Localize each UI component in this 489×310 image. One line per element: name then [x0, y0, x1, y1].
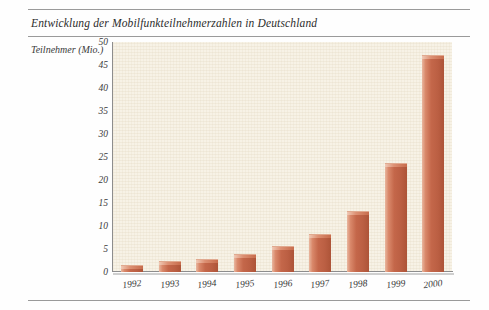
chart-figure: Entwicklung der Mobilfunkteilnehmerzahle… [0, 0, 489, 310]
y-axis-tick-label: 30 [82, 129, 108, 139]
x-axis-tick-label: 1998 [339, 277, 378, 292]
bar [196, 259, 218, 272]
y-axis-tick-label: 0 [82, 267, 108, 277]
x-axis-tick-label: 1995 [226, 277, 265, 292]
bar [347, 211, 369, 272]
x-axis-tick-label: 1993 [150, 277, 189, 292]
bar [159, 261, 181, 272]
bar-top-highlight [159, 262, 181, 265]
bottom-rule [28, 300, 470, 301]
y-axis-tick-label: 25 [82, 152, 108, 162]
bar-top-highlight [422, 56, 444, 59]
bar-top-highlight [272, 247, 294, 250]
bar [272, 246, 294, 272]
bar-top-highlight [309, 235, 331, 238]
bar [422, 55, 444, 272]
x-axis-tick-label: 1992 [113, 277, 152, 292]
bar-top-highlight [121, 266, 143, 269]
bar-top-highlight [347, 212, 369, 215]
bar [309, 234, 331, 272]
y-axis-tick-label: 45 [82, 60, 108, 70]
y-axis-tick-label: 5 [82, 244, 108, 254]
bar-series [113, 42, 452, 272]
bar-top-highlight [234, 255, 256, 258]
y-axis-tick-label: 40 [82, 83, 108, 93]
y-axis-tick-label: 10 [82, 221, 108, 231]
x-axis-tick-label: 1997 [301, 277, 340, 292]
y-axis-tick-label: 50 [82, 37, 108, 47]
bar-top-highlight [196, 260, 218, 263]
bar [234, 254, 256, 272]
bar-top-highlight [385, 164, 407, 167]
page-title: Entwicklung der Mobilfunkteilnehmerzahle… [31, 17, 317, 29]
y-axis-tick-label: 20 [82, 175, 108, 185]
x-axis-tick-label: 1994 [188, 277, 227, 292]
y-axis-tick-label: 15 [82, 198, 108, 208]
x-axis-tick-label: 1999 [376, 277, 415, 292]
bar [121, 265, 143, 272]
y-axis-tick-label: 35 [82, 106, 108, 116]
bar [385, 163, 407, 272]
x-axis-tick-label: 1996 [263, 277, 302, 292]
x-axis-tick-label: 2000 [414, 277, 453, 292]
y-axis-tick-labels: 05101520253035404550 [78, 0, 108, 310]
